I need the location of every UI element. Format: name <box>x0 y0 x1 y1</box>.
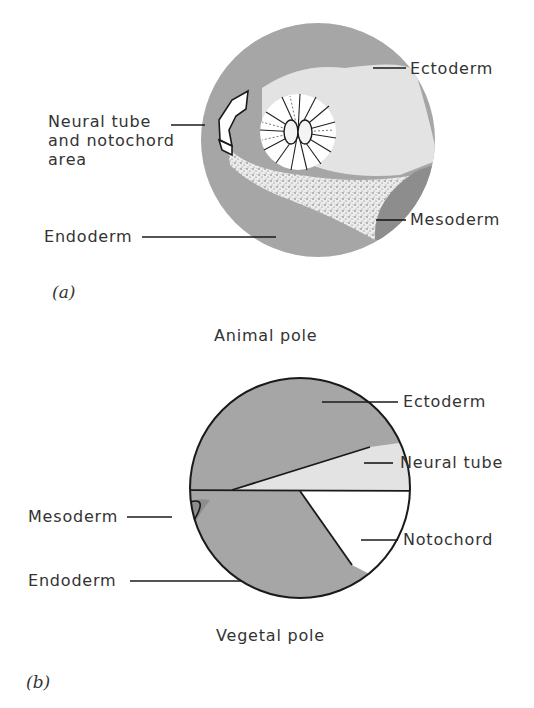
label-endoderm-a: Endoderm <box>44 227 132 246</box>
label-neural-tube-a-2: and notochord <box>48 131 175 150</box>
caption-vegetal-pole: Vegetal pole <box>216 626 325 645</box>
embryo-diagrams <box>0 0 534 708</box>
caption-animal-pole: Animal pole <box>214 326 318 345</box>
label-neural-tube-a-1: Neural tube <box>48 112 151 131</box>
figure-a-tag: (a) <box>52 282 75 302</box>
label-endoderm-b: Endoderm <box>28 571 116 590</box>
label-neural-tube-b: Neural tube <box>400 453 503 472</box>
figure-a-embryo <box>142 23 445 257</box>
label-ectoderm-a: Ectoderm <box>410 59 493 78</box>
label-mesoderm-a: Mesoderm <box>410 210 500 229</box>
figure-b-tag: (b) <box>26 672 50 692</box>
label-notochord-b: Notochord <box>403 530 493 549</box>
label-mesoderm-b: Mesoderm <box>28 507 118 526</box>
label-ectoderm-b: Ectoderm <box>403 392 486 411</box>
label-neural-tube-a-3: area <box>48 150 87 169</box>
figure-b-embryo <box>127 378 420 600</box>
